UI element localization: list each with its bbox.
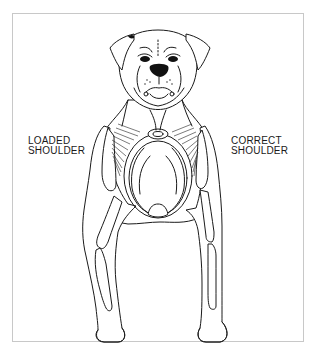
dog-head xyxy=(110,30,210,110)
dog-illustration xyxy=(0,0,315,364)
